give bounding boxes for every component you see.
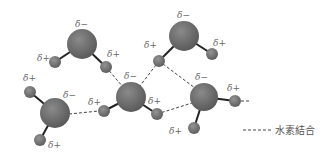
hydrogen-atom [100,61,112,73]
delta-plus-label: δ+ [37,53,50,63]
molecule-e: δ− δ+ δ+ [23,73,76,150]
delta-plus-label: δ+ [213,38,226,48]
molecule-d: δ− δ+ δ+ [169,72,241,136]
delta-plus-label: δ+ [169,126,182,136]
molecule-b: δ− δ+ δ+ [144,10,226,67]
hydrogen-atom [34,134,46,146]
hydrogen-atom [153,55,165,67]
delta-plus-label: δ+ [88,97,101,107]
delta-plus-label: δ+ [107,49,120,59]
delta-minus-label: δ− [75,19,88,29]
hbond-e-c [69,111,99,114]
delta-minus-label: δ− [63,90,76,100]
oxygen-atom [67,29,97,59]
delta-minus-label: δ− [177,10,190,20]
delta-plus-label: δ+ [148,96,161,106]
delta-plus-label: δ+ [23,73,36,83]
delta-plus-label: δ+ [227,83,240,93]
hydrogen-atom [206,48,218,60]
oxygen-atom [40,98,70,128]
hydrogen-bond-diagram: δ− δ+ δ+ δ− δ+ δ+ δ− δ+ δ+ δ− δ+ δ+ [0,0,332,157]
delta-plus-label: δ+ [48,140,61,150]
diagram-canvas: δ− δ+ δ+ δ− δ+ δ+ δ− δ+ δ+ δ− δ+ δ+ [0,0,332,157]
delta-plus-label: δ+ [144,40,157,50]
oxygen-atom [116,82,146,112]
molecule-a: δ− δ+ δ+ [37,19,120,73]
legend-label: 水素結合 [275,124,315,136]
delta-minus-label: δ− [124,71,137,81]
hbond-b-d [159,61,195,88]
hydrogen-atom [24,86,36,98]
delta-minus-label: δ− [195,72,208,82]
oxygen-atom [169,21,199,51]
legend: 水素結合 [243,124,315,136]
hydrogen-atom [229,95,241,107]
hydrogen-atom [188,122,200,134]
hydrogen-atom [49,56,61,68]
oxygen-atom [190,83,218,111]
molecule-c: δ− δ+ δ+ [88,71,163,120]
hydrogen-atom [151,108,163,120]
